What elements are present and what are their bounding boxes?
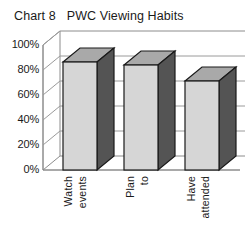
category-label-watch-events-line2: events <box>77 176 89 208</box>
y-tick-label-60: 60% <box>0 88 39 100</box>
bar-front-face <box>63 62 97 170</box>
y-tick-label-100: 100% <box>0 38 39 50</box>
category-label-watch-events-line1: Watch <box>63 176 75 206</box>
gridline-diagonal-80 <box>43 56 60 70</box>
category-label-plan-to-line2: to <box>139 176 151 185</box>
bar-side-face <box>158 51 175 170</box>
gridline-diagonal-20 <box>43 131 60 145</box>
y-tick-label-0: 0% <box>0 163 39 175</box>
bar-front-face <box>185 81 219 170</box>
y-tick-label-20: 20% <box>0 138 39 150</box>
category-label-have-attended-line1: Have <box>186 176 198 201</box>
floor-left-diagonal <box>43 156 60 170</box>
chart-figure: Chart 8PWC Viewing Habits <box>0 0 251 226</box>
bar-have-attended[interactable] <box>185 67 236 170</box>
bar-front-face <box>124 65 158 170</box>
category-label-plan-to-line1: Plan <box>125 176 137 198</box>
gridline-diagonal-60 <box>43 81 60 95</box>
category-label-have-attended-line2: attended <box>200 176 212 218</box>
bar-plan-to[interactable] <box>124 51 175 170</box>
gridline-diagonal-40 <box>43 106 60 120</box>
y-tick-label-80: 80% <box>0 63 39 75</box>
bar-side-face <box>97 48 114 170</box>
bar-side-face <box>219 67 236 170</box>
y-tick-label-40: 40% <box>0 113 39 125</box>
bar-watch-events[interactable] <box>63 48 114 170</box>
gridline-diagonal-100 <box>43 31 60 45</box>
